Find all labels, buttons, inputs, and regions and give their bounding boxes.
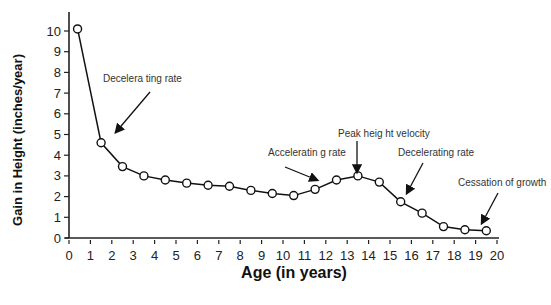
annotation-label: Peak heig ht velocity xyxy=(338,128,430,139)
x-tick-label: 9 xyxy=(258,248,265,263)
y-tick-label: 5 xyxy=(54,127,61,142)
annotation-label: Decelera ting rate xyxy=(103,73,182,84)
x-tick-label: 18 xyxy=(447,248,461,263)
annotation-label: Cessation of growth xyxy=(458,177,546,188)
y-tick-label: 10 xyxy=(47,24,61,39)
y-tick-label: 1 xyxy=(54,210,61,225)
data-point xyxy=(119,163,127,171)
y-tick-label: 2 xyxy=(54,189,61,204)
data-point xyxy=(226,182,234,190)
annotation-label: Acceleratin g rate xyxy=(268,147,346,158)
x-tick-label: 0 xyxy=(65,248,72,263)
y-axis-label: Gain in Height (inches/year) xyxy=(10,54,25,226)
axes xyxy=(65,12,499,238)
x-tick-label: 14 xyxy=(361,248,375,263)
data-point xyxy=(354,172,362,180)
y-tick-label: 9 xyxy=(54,44,61,59)
x-tick-label: 19 xyxy=(468,248,482,263)
x-tick-label: 20 xyxy=(490,248,504,263)
data-point xyxy=(161,176,169,184)
annotation-arrow xyxy=(285,167,317,180)
x-tick-label: 1 xyxy=(87,248,94,263)
data-point xyxy=(268,189,276,197)
data-point xyxy=(418,209,426,217)
x-axis-ticks: 01234567891011121314151617181920 xyxy=(65,240,504,263)
x-tick-label: 2 xyxy=(108,248,115,263)
y-tick-label: 8 xyxy=(54,65,61,80)
data-point xyxy=(397,198,405,206)
x-tick-label: 6 xyxy=(194,248,201,263)
y-tick-label: 6 xyxy=(54,106,61,121)
data-point xyxy=(461,226,469,234)
annotation-arrow xyxy=(116,92,150,132)
x-tick-label: 8 xyxy=(237,248,244,263)
y-tick-label: 0 xyxy=(54,231,61,246)
annotation-arrow xyxy=(482,193,498,223)
x-tick-label: 12 xyxy=(319,248,333,263)
data-point xyxy=(482,227,490,235)
x-tick-label: 10 xyxy=(276,248,290,263)
data-point xyxy=(74,25,82,33)
data-point xyxy=(440,223,448,231)
x-tick-label: 3 xyxy=(130,248,137,263)
y-axis-ticks: 012345678910 xyxy=(47,24,69,246)
growth-velocity-chart: 012345678910 012345678910111213141516171… xyxy=(0,0,551,305)
x-tick-label: 17 xyxy=(426,248,440,263)
x-tick-label: 11 xyxy=(298,248,312,263)
data-point xyxy=(97,139,105,147)
data-point xyxy=(311,185,319,193)
x-tick-label: 16 xyxy=(404,248,418,263)
annotation-label: Decelerating rate xyxy=(398,147,475,158)
data-point xyxy=(183,179,191,187)
data-point xyxy=(375,178,383,186)
x-tick-label: 4 xyxy=(151,248,158,263)
data-point xyxy=(140,172,148,180)
x-tick-label: 13 xyxy=(340,248,354,263)
data-point xyxy=(333,176,341,184)
data-point xyxy=(247,186,255,194)
x-tick-label: 5 xyxy=(172,248,179,263)
data-point xyxy=(204,181,212,189)
x-axis-label: Age (in years) xyxy=(241,264,347,281)
x-tick-label: 7 xyxy=(215,248,222,263)
y-tick-label: 3 xyxy=(54,168,61,183)
annotations: Decelera ting rateAcceleratin g ratePeak… xyxy=(103,73,546,223)
data-point xyxy=(290,192,298,200)
y-tick-label: 7 xyxy=(54,86,61,101)
y-tick-label: 4 xyxy=(54,148,61,163)
annotation-arrow xyxy=(407,163,423,193)
x-tick-label: 15 xyxy=(383,248,397,263)
